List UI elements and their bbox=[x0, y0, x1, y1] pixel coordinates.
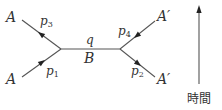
label-b: B bbox=[83, 50, 94, 66]
label-outgoing-a-bottom: A′ bbox=[155, 71, 171, 87]
label-p4: p4 bbox=[118, 24, 131, 39]
label-p3: p3 bbox=[40, 14, 53, 29]
label-p1: p1 bbox=[46, 64, 59, 79]
label-q: q bbox=[86, 33, 94, 47]
label-incoming-a-bottom: A bbox=[4, 71, 16, 87]
feynman-diagram: A A A′ A′ p3 p1 p4 p2 q B 時間 bbox=[0, 0, 222, 110]
label-outgoing-a-top: A′ bbox=[155, 8, 171, 24]
time-arrow-icon bbox=[196, 5, 201, 13]
time-axis-label: 時間 bbox=[187, 92, 211, 106]
label-incoming-a-top: A bbox=[4, 9, 16, 25]
